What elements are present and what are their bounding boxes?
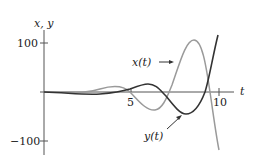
xtick-label-5: 5 bbox=[127, 96, 134, 109]
x-curve-arrowhead bbox=[169, 60, 174, 64]
chart: x, y 100 −100 5 10 t x(t) y(t) bbox=[0, 0, 255, 162]
xtick-label-10: 10 bbox=[213, 96, 227, 109]
t-axis-label: t bbox=[240, 85, 245, 98]
ytick-label-100: 100 bbox=[17, 37, 38, 50]
y-axis-label: x, y bbox=[34, 17, 54, 30]
y-curve-label: y(t) bbox=[143, 130, 163, 143]
ytick-label-minus100: −100 bbox=[10, 135, 40, 148]
x-curve-label: x(t) bbox=[132, 56, 151, 69]
